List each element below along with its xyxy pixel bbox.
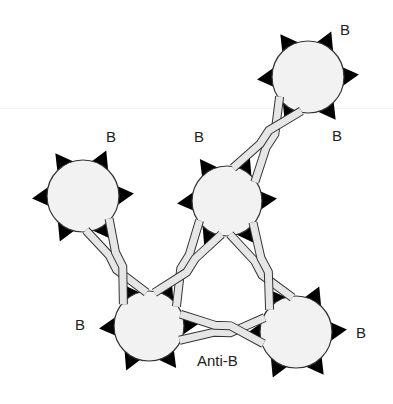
antigen-label-b: B [75, 316, 85, 333]
antigen-label-b: B [356, 324, 366, 341]
antibody-arm [233, 111, 301, 168]
antigen-label-b: B [106, 128, 116, 145]
cell-left [32, 151, 134, 242]
cell-bottom-left [99, 282, 199, 371]
antibody-bottom [179, 314, 264, 343]
antibody-arm [154, 234, 221, 293]
cell-bottom-right [245, 287, 347, 378]
antigen-label-b: B [194, 128, 204, 145]
antigen-label-b: B [332, 127, 342, 144]
cell-top-right [257, 32, 359, 123]
antigen-label-b: B [340, 21, 350, 38]
agglutination-diagram: B B B B B B Anti-B [0, 0, 393, 404]
antibody-label-anti-b: Anti-B [197, 352, 238, 369]
